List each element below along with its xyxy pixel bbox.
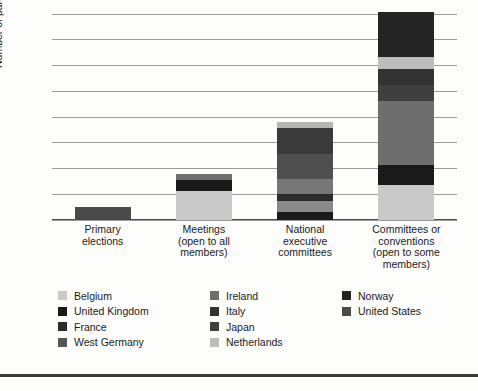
bar-segment [176, 191, 232, 220]
stacked-bar-chart-figure: Number of parties 048121620242832 Primar… [0, 0, 478, 391]
x-axis-label-2: Meetings(open to allmembers) [152, 224, 256, 259]
bar-segment [378, 85, 434, 101]
legend-column-1: BelgiumUnited KingdomFranceWest Germany [58, 288, 149, 350]
legend-item-netherlands[interactable]: Netherlands [210, 335, 283, 351]
bar-segment [277, 179, 333, 194]
x-axis-label-1: Primaryelections [51, 224, 155, 247]
bar-segment [176, 180, 232, 191]
bar-stack-1[interactable] [75, 207, 131, 220]
legend-label: Japan [226, 321, 255, 333]
x-axis-label-line: Primary [51, 224, 155, 236]
bar-segment [378, 12, 434, 57]
legend-swatch-icon [58, 322, 67, 331]
bar-segment [277, 212, 333, 220]
legend-item-italy[interactable]: Italy [210, 304, 283, 320]
legend-swatch-icon [210, 307, 219, 316]
legend-label: Italy [226, 305, 245, 317]
legend-item-france[interactable]: France [58, 319, 149, 335]
legend-label: France [74, 321, 107, 333]
legend-column-2: IrelandItalyJapanNetherlands [210, 288, 283, 350]
legend-label: Belgium [74, 290, 112, 302]
legend-item-united-kingdom[interactable]: United Kingdom [58, 304, 149, 320]
legend-item-united-states[interactable]: United States [342, 304, 421, 320]
x-axis-label-line: National [253, 224, 357, 236]
bar-segment [277, 201, 333, 212]
bar-segment [378, 165, 434, 184]
x-axis-label-line: committees [253, 247, 357, 259]
x-axis-label-line: members) [354, 259, 458, 271]
legend-item-norway[interactable]: Norway [342, 288, 421, 304]
legend-swatch-icon [58, 338, 67, 347]
legend-label: United States [358, 305, 421, 317]
bar-segment [378, 57, 434, 69]
bar-stack-4[interactable] [378, 12, 434, 220]
x-axis-label-line: elections [51, 236, 155, 248]
legend-label: Netherlands [226, 336, 283, 348]
x-axis-category-labels: PrimaryelectionsMeetings(open to allmemb… [52, 224, 457, 282]
y-axis-label: Number of parties [0, 0, 4, 68]
bar-segment [75, 207, 131, 220]
x-axis-label-4: Committees orconventions(open to somemem… [354, 224, 458, 270]
legend-item-belgium[interactable]: Belgium [58, 288, 149, 304]
legend-swatch-icon [210, 291, 219, 300]
bar-stack-2[interactable] [176, 174, 232, 220]
bar-stack-3[interactable] [277, 122, 333, 220]
legend-label: West Germany [74, 336, 144, 348]
bar-segment [378, 185, 434, 220]
x-axis-label-line: Meetings [152, 224, 256, 236]
legend-swatch-icon [342, 291, 351, 300]
legend-label: United Kingdom [74, 305, 149, 317]
legend-column-3: NorwayUnited States [342, 288, 421, 319]
legend-item-west-germany[interactable]: West Germany [58, 335, 149, 351]
bar-segment [378, 101, 434, 165]
bottom-divider-rule [0, 374, 478, 377]
legend-label: Norway [358, 290, 394, 302]
legend-item-ireland[interactable]: Ireland [210, 288, 283, 304]
bar-segment [378, 69, 434, 85]
bar-segment [277, 154, 333, 180]
legend-item-japan[interactable]: Japan [210, 319, 283, 335]
legend-swatch-icon [210, 322, 219, 331]
x-axis-label-line: Committees or [354, 224, 458, 236]
x-axis-label-3: Nationalexecutivecommittees [253, 224, 357, 259]
plot-area: 048121620242832 [52, 14, 457, 220]
legend-swatch-icon [210, 338, 219, 347]
legend-label: Ireland [226, 290, 258, 302]
x-axis-label-line: members) [152, 247, 256, 259]
chart-legend: BelgiumUnited KingdomFranceWest GermanyI… [58, 288, 458, 350]
bar-segment [277, 128, 333, 154]
legend-swatch-icon [342, 307, 351, 316]
legend-swatch-icon [58, 291, 67, 300]
legend-swatch-icon [58, 307, 67, 316]
